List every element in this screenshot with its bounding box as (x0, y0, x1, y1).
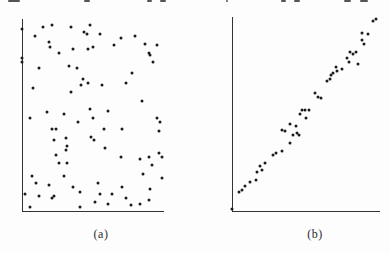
scatter-point (102, 128, 105, 131)
scatter-point (57, 161, 60, 164)
scatter-point (152, 61, 155, 64)
scatter-point (143, 42, 146, 45)
panel-b-label: (b) (298, 227, 332, 242)
scatter-point (244, 184, 247, 187)
scatter-point (248, 180, 251, 183)
text-fragment (294, 0, 300, 2)
text-fragment (84, 0, 90, 2)
scatter-point (35, 182, 38, 185)
scatter-point (328, 78, 331, 81)
scatter-point (37, 66, 40, 69)
scatter-point (111, 193, 114, 196)
scatter-point (70, 25, 73, 28)
scatter-point (256, 171, 259, 174)
scatter-point (307, 109, 310, 112)
scatter-point (87, 81, 90, 84)
scatter-point (347, 60, 350, 63)
scatter-point (37, 195, 40, 198)
panel-a-plot-area (22, 25, 163, 211)
scatter-point (367, 33, 370, 36)
scatter-point (46, 111, 49, 114)
scatter-point (159, 120, 162, 123)
scatter-point (140, 100, 143, 103)
scatter-point (21, 61, 24, 64)
scatter-point (21, 57, 24, 60)
scatter-point (91, 46, 94, 49)
scatter-point (361, 39, 364, 42)
scatter-point (47, 40, 50, 43)
scatter-point (88, 107, 91, 110)
scatter-point (54, 128, 57, 131)
scatter-point (23, 193, 26, 196)
scatter-point (319, 97, 322, 100)
scatter-point (77, 120, 80, 123)
scatter-point (112, 44, 115, 47)
scatter-point (294, 124, 297, 127)
scatter-point (66, 144, 69, 147)
scatter-point (149, 53, 152, 56)
scatter-point (54, 154, 57, 157)
scatter-point (125, 196, 128, 199)
scatter-point (231, 208, 234, 211)
scatter-point (340, 68, 343, 71)
text-fragment (147, 0, 152, 2)
scatter-point (32, 87, 35, 90)
scatter-point (57, 51, 60, 54)
scatter-point (331, 72, 334, 75)
scatter-point (361, 31, 364, 34)
scatter-point (139, 157, 142, 160)
scatter-point (88, 24, 91, 27)
scatter-point (42, 25, 45, 28)
scatter-point (147, 156, 150, 159)
scatter-point (47, 183, 50, 186)
scatter-point (50, 24, 53, 27)
figure-canvas: (a) (b) (0, 0, 390, 254)
scatter-point (288, 122, 291, 125)
scatter-point (21, 27, 24, 30)
scatter-point (90, 135, 93, 138)
scatter-point (29, 206, 32, 209)
scatter-point (303, 109, 306, 112)
scatter-point (50, 128, 53, 131)
scatter-point (125, 81, 128, 84)
scatter-point (374, 17, 377, 20)
scatter-point (71, 48, 74, 51)
scatter-point (149, 187, 152, 190)
scatter-point (260, 169, 263, 172)
scatter-point (104, 146, 107, 149)
text-fragment (226, 0, 228, 2)
scatter-point (297, 134, 300, 137)
panel-a-x-axis (22, 211, 164, 212)
scatter-point (63, 113, 66, 116)
scatter-point (80, 83, 83, 86)
scatter-point (29, 117, 32, 120)
scatter-point (97, 182, 100, 185)
text-fragment (8, 0, 20, 2)
scatter-point (157, 152, 160, 155)
scatter-point (33, 35, 36, 38)
scatter-point (101, 83, 104, 86)
scatter-point (263, 161, 266, 164)
scatter-point (305, 116, 308, 119)
scatter-point (160, 176, 163, 179)
scatter-point (92, 139, 95, 142)
scatter-point (254, 178, 257, 181)
scatter-point (119, 37, 122, 40)
panel-b-plot-area (232, 17, 380, 211)
cropped-caption-fragments (0, 0, 390, 4)
scatter-point (355, 50, 358, 53)
scatter-point (64, 148, 67, 151)
scatter-point (67, 64, 70, 67)
scatter-point (275, 151, 278, 154)
scatter-point (133, 35, 136, 38)
panel-b-x-axis (232, 211, 380, 212)
scatter-point (78, 206, 81, 209)
scatter-point (78, 191, 81, 194)
scatter-point (281, 149, 284, 152)
panel-a-label: (a) (84, 227, 118, 242)
scatter-point (241, 188, 244, 191)
scatter-point (98, 193, 101, 196)
scatter-point (121, 128, 124, 131)
scatter-point (64, 137, 67, 140)
scatter-point (70, 90, 73, 93)
